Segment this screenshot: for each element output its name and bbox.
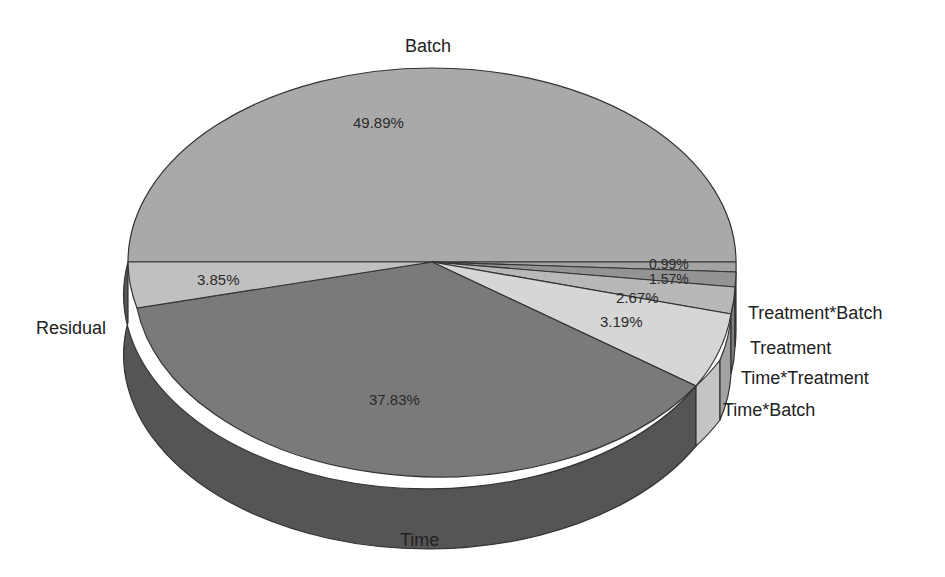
pct-batch: 49.89% <box>353 114 404 131</box>
pct-treatment-batch: 0.99% <box>649 256 689 272</box>
label-batch: Batch <box>405 36 451 57</box>
pct-treatment: 1.57% <box>649 271 689 287</box>
label-treatment-batch: Treatment*Batch <box>748 303 882 324</box>
label-residual: Residual <box>36 318 106 339</box>
pct-time-batch: 3.19% <box>600 313 643 330</box>
label-time-batch: Time*Batch <box>723 400 815 421</box>
label-time: Time <box>400 530 439 551</box>
pie-chart <box>0 0 945 577</box>
pct-time: 37.83% <box>369 391 420 408</box>
label-treatment: Treatment <box>750 338 831 359</box>
pct-residual: 3.85% <box>197 271 240 288</box>
pct-time-treatment: 2.67% <box>616 289 659 306</box>
slice-batch <box>128 68 736 262</box>
label-time-treatment: Time*Treatment <box>741 368 869 389</box>
